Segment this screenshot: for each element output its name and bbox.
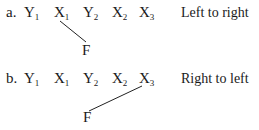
row-a-token-x1: X1 [54,5,69,20]
row-b-label: b. [6,71,17,86]
row-a-token-y1: Y1 [24,5,39,20]
row-a-token-y2: Y2 [83,5,98,20]
row-b-connector [89,86,142,111]
row-b-token-x2: X2 [112,71,127,86]
row-b-token-y1: Y1 [24,71,39,86]
row-b-token-x3: X3 [139,71,154,86]
row-b-direction: Right to left [181,71,249,86]
row-b-token-y2: Y2 [83,71,98,86]
row-a-connector [60,21,86,42]
row-a-direction: Left to right [181,5,249,20]
row-b-token-x1: X1 [54,71,69,86]
row-a-token-x3: X3 [139,5,154,20]
row-a-label: a. [6,5,16,20]
row-a-token-x2: X2 [112,5,127,20]
row-b-factor: F [83,110,91,125]
row-a-factor: F [82,43,90,58]
